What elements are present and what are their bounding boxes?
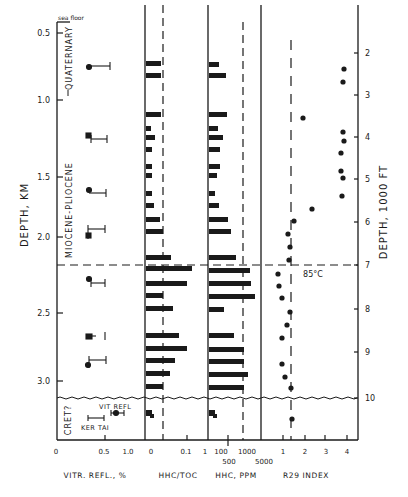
svg-text:0: 0 xyxy=(54,448,58,456)
svg-text:0.1: 0.1 xyxy=(180,448,191,456)
cret-label: CRET? xyxy=(64,405,73,435)
miocene-pliocene-label: MIOCENE-PLIOCENE xyxy=(65,162,74,258)
geochem-depth-chart: 0.5 1.0 1.5 2.0 2.5 3.0 DEPTH, KM sea fl… xyxy=(0,0,408,497)
svg-text:2.5: 2.5 xyxy=(37,309,50,318)
svg-text:HHC, PPM: HHC, PPM xyxy=(215,471,257,480)
svg-text:0.5: 0.5 xyxy=(98,448,109,456)
svg-text:7: 7 xyxy=(365,261,370,270)
right-axis-label: DEPTH, 1000 FT xyxy=(378,165,389,259)
svg-text:1.0: 1.0 xyxy=(37,96,50,105)
svg-text:100: 100 xyxy=(214,448,227,456)
svg-text:3: 3 xyxy=(365,91,370,100)
unconformity-line xyxy=(57,397,357,399)
svg-text:10: 10 xyxy=(365,394,375,403)
svg-text:1: 1 xyxy=(281,448,285,456)
temperature-label: 85°C xyxy=(303,270,323,279)
vitr-refl-points xyxy=(86,62,125,421)
sea-floor-label: sea floor xyxy=(58,14,85,21)
left-axis-label: DEPTH, KM xyxy=(19,183,30,247)
svg-text:2.0: 2.0 xyxy=(37,233,50,242)
svg-text:VITR. REFL., %: VITR. REFL., % xyxy=(64,471,127,480)
svg-text:1000: 1000 xyxy=(238,448,256,456)
svg-text:HHC/TOC: HHC/TOC xyxy=(159,471,198,480)
hhc-ppm-bars xyxy=(209,62,255,418)
svg-text:3.0: 3.0 xyxy=(37,377,50,386)
svg-text:5000: 5000 xyxy=(255,458,273,466)
svg-text:5: 5 xyxy=(365,175,370,184)
ker-tai-legend: KER TAI xyxy=(81,424,109,432)
svg-text:9: 9 xyxy=(365,348,370,357)
frame xyxy=(57,5,358,440)
svg-text:2: 2 xyxy=(303,448,307,456)
left-ticks xyxy=(57,33,63,381)
svg-text:3: 3 xyxy=(324,448,328,456)
svg-text:500: 500 xyxy=(222,458,235,466)
vit-refl-legend: VIT REFL xyxy=(99,403,131,411)
svg-text:0: 0 xyxy=(149,448,153,456)
svg-text:1.0: 1.0 xyxy=(122,448,133,456)
svg-text:6: 6 xyxy=(365,218,370,227)
svg-text:1.5: 1.5 xyxy=(37,173,50,182)
svg-text:2: 2 xyxy=(365,49,370,58)
r29-points xyxy=(275,66,346,421)
bottom-axis-labels: VITR. REFL., % HHC/TOC HHC, PPM R29 INDE… xyxy=(64,471,329,480)
svg-text:8: 8 xyxy=(365,305,370,314)
quaternary-label: QUATERNARY xyxy=(65,26,74,90)
bottom-tick-labels: 0 0.5 1.0 0 0.1 1 100 1000 500 5000 1 2 … xyxy=(54,448,350,466)
svg-text:4: 4 xyxy=(365,133,370,142)
svg-text:4: 4 xyxy=(345,448,350,456)
svg-text:0.5: 0.5 xyxy=(37,29,50,38)
svg-text:R29 INDEX: R29 INDEX xyxy=(283,471,329,480)
left-tick-labels: 0.5 1.0 1.5 2.0 2.5 3.0 xyxy=(37,29,50,386)
svg-text:1: 1 xyxy=(203,448,207,456)
right-tick-labels: 2 3 4 5 6 7 8 9 10 xyxy=(365,49,375,403)
hhc-toc-bars xyxy=(146,61,192,418)
